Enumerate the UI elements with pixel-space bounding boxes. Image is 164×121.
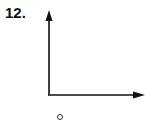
coordinate-axes — [0, 0, 164, 121]
small-circle-mark — [57, 114, 63, 120]
y-axis-arrowhead-icon — [46, 10, 53, 21]
x-axis-arrowhead-icon — [133, 92, 145, 99]
